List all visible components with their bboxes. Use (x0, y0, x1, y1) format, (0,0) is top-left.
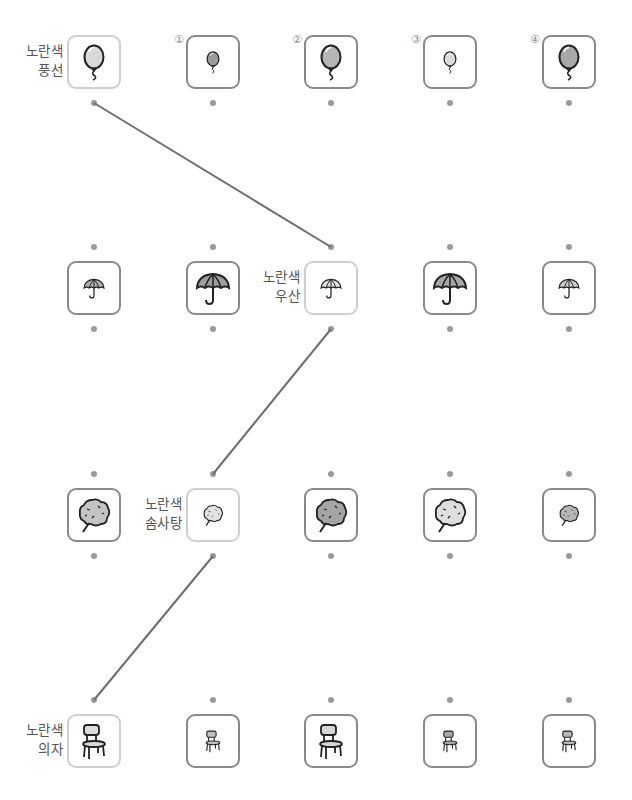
connector-dot-top[interactable] (328, 697, 334, 703)
connection-lines (0, 0, 632, 800)
umbrella-icon (74, 268, 114, 308)
option-card-balloon-2[interactable] (186, 35, 240, 89)
balloon-icon (74, 42, 114, 82)
chair-icon (430, 721, 470, 761)
connector-dot-top[interactable] (328, 244, 334, 250)
option-number: ② (290, 33, 304, 47)
label-line-1: 노란색 (240, 268, 300, 287)
label-line-2: 솜사탕 (122, 514, 182, 533)
chair-icon (549, 721, 589, 761)
target-label-cotton-candy: 노란색솜사탕 (122, 495, 182, 533)
option-card-chair-4[interactable] (423, 714, 477, 768)
connector-dot-bottom[interactable] (447, 100, 453, 106)
option-number: ④ (528, 33, 542, 47)
label-line-2: 풍선 (3, 61, 63, 80)
cotton-candy-icon (311, 495, 351, 535)
option-card-umbrella-5[interactable] (542, 261, 596, 315)
target-label-chair: 노란색의자 (3, 721, 63, 759)
label-line-1: 노란색 (122, 495, 182, 514)
connector-dot-top[interactable] (566, 471, 572, 477)
connector-dot-bottom[interactable] (91, 326, 97, 332)
connector-dot-top[interactable] (447, 697, 453, 703)
balloon-icon (193, 42, 233, 82)
umbrella-icon (193, 268, 233, 308)
connector-dot-bottom[interactable] (210, 326, 216, 332)
umbrella-icon (549, 268, 589, 308)
option-card-balloon-3[interactable] (304, 35, 358, 89)
target-card-balloon-1[interactable] (67, 35, 121, 89)
connector-dot-bottom[interactable] (328, 326, 334, 332)
option-card-balloon-5[interactable] (542, 35, 596, 89)
connector-dot-top[interactable] (566, 244, 572, 250)
target-card-umbrella-3[interactable] (304, 261, 358, 315)
balloon-icon (549, 42, 589, 82)
option-card-balloon-4[interactable] (423, 35, 477, 89)
target-card-chair-1[interactable] (67, 714, 121, 768)
matching-worksheet: ① ② ③ ④노란색풍선 (0, 0, 632, 800)
connector-dot-top[interactable] (91, 244, 97, 250)
connector-dot-bottom[interactable] (210, 553, 216, 559)
connector-dot-top[interactable] (91, 471, 97, 477)
connector-dot-bottom[interactable] (447, 553, 453, 559)
connector-dot-top[interactable] (447, 244, 453, 250)
cotton-candy-icon (74, 495, 114, 535)
connector-dot-top[interactable] (447, 471, 453, 477)
chair-icon (193, 721, 233, 761)
chair-icon (74, 721, 114, 761)
connector-dot-bottom[interactable] (447, 326, 453, 332)
cotton-candy-icon (549, 495, 589, 535)
option-card-chair-5[interactable] (542, 714, 596, 768)
connection-line (94, 103, 331, 247)
option-number: ③ (409, 33, 423, 47)
connector-dot-top[interactable] (210, 471, 216, 477)
connector-dot-bottom[interactable] (210, 100, 216, 106)
connection-line (94, 556, 213, 700)
connector-dot-bottom[interactable] (91, 553, 97, 559)
label-line-1: 노란색 (3, 721, 63, 740)
umbrella-icon (311, 268, 351, 308)
connector-dot-top[interactable] (210, 244, 216, 250)
option-card-umbrella-1[interactable] (67, 261, 121, 315)
option-card-cotton-candy-5[interactable] (542, 488, 596, 542)
label-line-2: 의자 (3, 740, 63, 759)
option-card-umbrella-4[interactable] (423, 261, 477, 315)
label-line-2: 우산 (240, 287, 300, 306)
target-card-cotton-candy-2[interactable] (186, 488, 240, 542)
option-card-chair-2[interactable] (186, 714, 240, 768)
chair-icon (311, 721, 351, 761)
option-card-cotton-candy-1[interactable] (67, 488, 121, 542)
balloon-icon (430, 42, 470, 82)
option-card-umbrella-2[interactable] (186, 261, 240, 315)
target-label-balloon: 노란색풍선 (3, 42, 63, 80)
connector-dot-bottom[interactable] (91, 100, 97, 106)
cotton-candy-icon (193, 495, 233, 535)
target-label-umbrella: 노란색우산 (240, 268, 300, 306)
label-line-1: 노란색 (3, 42, 63, 61)
connector-dot-bottom[interactable] (566, 553, 572, 559)
cotton-candy-icon (430, 495, 470, 535)
connector-dot-bottom[interactable] (566, 326, 572, 332)
option-card-cotton-candy-4[interactable] (423, 488, 477, 542)
connector-dot-top[interactable] (566, 697, 572, 703)
connection-line (213, 329, 331, 474)
connector-dot-bottom[interactable] (328, 553, 334, 559)
option-number: ① (172, 33, 186, 47)
connector-dot-bottom[interactable] (566, 100, 572, 106)
connector-dot-bottom[interactable] (328, 100, 334, 106)
balloon-icon (311, 42, 351, 82)
connector-dot-top[interactable] (210, 697, 216, 703)
umbrella-icon (430, 268, 470, 308)
connector-dot-top[interactable] (91, 697, 97, 703)
option-card-cotton-candy-3[interactable] (304, 488, 358, 542)
connector-dot-top[interactable] (328, 471, 334, 477)
option-card-chair-3[interactable] (304, 714, 358, 768)
